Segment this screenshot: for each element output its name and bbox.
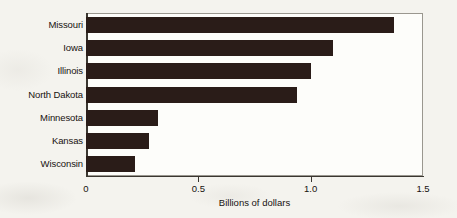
x-tick-label: 1.5 [416,183,429,194]
bar [86,63,311,79]
x-axis-title: Billions of dollars [86,197,423,208]
bar [86,87,297,103]
category-label: Wisconsin [0,159,83,169]
x-tick-label: 1.0 [304,183,317,194]
category-label: Illinois [0,66,83,76]
bar [86,133,149,149]
category-label: Minnesota [0,113,83,123]
x-tick-mark [311,177,312,182]
category-axis-labels: MissouriIowaIllinoisNorth DakotaMinnesot… [0,13,83,176]
bar [86,156,135,172]
x-tick-mark [198,177,199,182]
x-tick-label: 0.5 [192,183,205,194]
bar [86,40,333,56]
x-tick-label: 0 [83,183,88,194]
bar [86,17,394,33]
bar-chart-figure: MissouriIowaIllinoisNorth DakotaMinnesot… [0,0,457,218]
category-axis-line [86,176,424,178]
category-label: Missouri [0,20,83,30]
bar [86,110,158,126]
category-label: Kansas [0,136,83,146]
category-label: North Dakota [0,90,83,100]
category-label: Iowa [0,43,83,53]
